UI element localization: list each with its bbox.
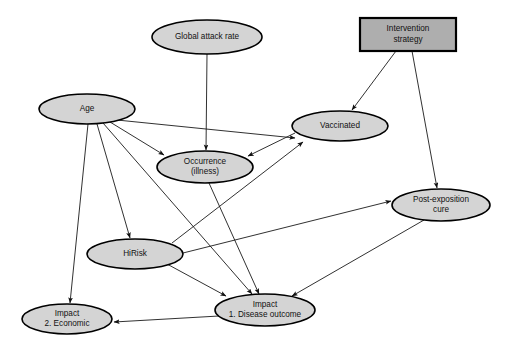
edge-intervention_strategy-to-vaccinated	[352, 51, 396, 110]
node-label-age: Age	[80, 104, 95, 113]
edge-age-to-occurrence_illness	[110, 122, 164, 155]
edge-impact_disease_outcome-to-impact_economic	[114, 316, 219, 322]
node-label-hirisk: HiRisk	[123, 249, 148, 258]
node-age[interactable]: Age	[39, 94, 135, 124]
edge-intervention_strategy-to-post_exposition_cure	[412, 51, 437, 188]
graph-svg: Global attack rateInterventionstrategyAg…	[0, 0, 509, 353]
node-impact_economic[interactable]: Impact2. Economic	[22, 304, 112, 334]
edge-occurrence_illness-to-impact_disease_outcome	[209, 183, 259, 294]
node-impact_disease_outcome[interactable]: Impact1. Disease outcome	[215, 294, 315, 326]
node-occurrence_illness[interactable]: Occurrence(illness)	[157, 151, 253, 183]
node-hirisk[interactable]: HiRisk	[87, 239, 183, 269]
influence-diagram-canvas: Global attack rateInterventionstrategyAg…	[0, 0, 509, 353]
node-label-global_attack_rate: Global attack rate	[175, 32, 240, 41]
edge-vaccinated-to-occurrence_illness	[248, 133, 295, 156]
node-post_exposition_cure[interactable]: Post-expositioncure	[392, 189, 490, 221]
node-vaccinated[interactable]: Vaccinated	[292, 111, 388, 141]
node-label-vaccinated: Vaccinated	[320, 121, 360, 130]
edge-hirisk-to-post_exposition_cure	[183, 201, 391, 253]
edges-layer	[70, 51, 437, 322]
edge-post_exposition_cure-to-impact_disease_outcome	[292, 220, 424, 296]
edge-age-to-hirisk	[97, 124, 130, 238]
node-global_attack_rate[interactable]: Global attack rate	[152, 20, 262, 54]
node-intervention_strategy[interactable]: Interventionstrategy	[360, 18, 456, 51]
edge-age-to-impact_economic	[70, 124, 88, 303]
edge-global_attack_rate-to-occurrence_illness	[206, 54, 207, 150]
edge-hirisk-to-impact_disease_outcome	[167, 264, 226, 296]
